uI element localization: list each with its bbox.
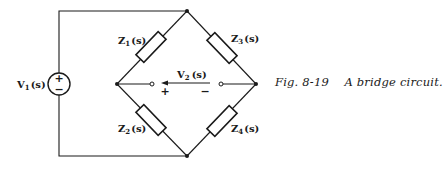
top-node (185, 9, 189, 13)
figure-number: Fig. 8-19 (275, 75, 329, 89)
bottom-node (185, 154, 189, 158)
output-voltage-label: V2(s) (176, 69, 207, 82)
output-voltage-indicator: V2(s) + − (160, 69, 210, 98)
voltage-source: + − (48, 72, 70, 96)
z2-label: Z2(s) (118, 123, 146, 136)
z3-label: Z3(s) (231, 33, 259, 46)
figure-caption: Fig. 8-19 A bridge circuit. (275, 75, 443, 89)
source-minus-sign: − (54, 83, 63, 96)
output-plus-sign: + (160, 85, 169, 98)
output-minus-sign: − (200, 85, 209, 98)
right-open-terminal (219, 82, 223, 86)
caption-spacer (329, 75, 344, 89)
figure-title: A bridge circuit. (344, 75, 443, 89)
source-label: V1(s) (16, 79, 46, 92)
left-open-terminal (150, 82, 154, 86)
z1-label: Z1(s) (118, 35, 146, 48)
z4-label: Z4(s) (231, 123, 259, 136)
